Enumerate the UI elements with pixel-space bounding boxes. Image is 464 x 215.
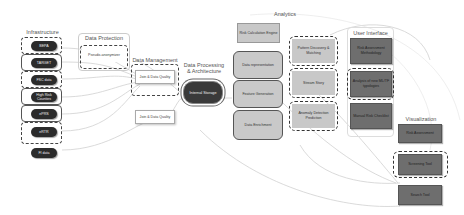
section-data-protection-label: Data Protection: [78, 35, 130, 41]
node-analysis-new-ml-tf-typologies[interactable]: Analysis of new ML/TF typologies: [350, 71, 392, 97]
node-risk-calculation-engine[interactable]: Risk Calculation Engine: [237, 23, 280, 43]
node-feature-generation[interactable]: Feature Generation: [233, 80, 283, 108]
section-data-management-label: Data Management: [130, 57, 180, 63]
node-pseudo-anonymizer[interactable]: Pseudo-anonymizer: [82, 47, 126, 62]
node-high-risk-counties[interactable]: High Risk Counties: [31, 92, 57, 102]
section-visualization-label: Visualization: [398, 116, 444, 122]
connection-lines: [0, 0, 464, 215]
node-risk-assessment-methodology[interactable]: Risk Assessment Methodology: [350, 38, 392, 64]
section-infrastructure-label: Infrastructure: [20, 29, 65, 35]
node-pattern-discovery-matching[interactable]: Pattern Discovery & Matching: [292, 39, 335, 63]
section-data-processing-label: Data Processing & Architecture: [181, 62, 227, 74]
node-screening-tool[interactable]: Screening Tool: [398, 154, 442, 175]
node-search-tool[interactable]: Search Tool: [398, 185, 442, 205]
node-internal-storage[interactable]: Internal Storage: [183, 81, 223, 104]
node-anomaly-detection-prediction[interactable]: Anomaly Detection Prediction: [292, 104, 335, 128]
node-ertr[interactable]: eRTR: [31, 127, 57, 137]
node-stream-story[interactable]: Stream Story: [292, 71, 335, 95]
node-fsc-data[interactable]: FSC data: [31, 75, 57, 85]
node-bepa[interactable]: BEPA: [31, 41, 57, 51]
node-join-data-quality-2[interactable]: Join & Data Quality: [135, 110, 175, 124]
node-join-data-quality-1[interactable]: Join & Data Quality: [135, 70, 175, 84]
node-target[interactable]: TARGET: [31, 58, 57, 68]
section-user-interface-label: User Interface: [347, 30, 394, 36]
node-eprs[interactable]: ePRS: [31, 109, 57, 119]
node-risk-assessment[interactable]: Risk Assessment: [398, 124, 442, 143]
node-data-representation[interactable]: Data representation: [233, 51, 283, 79]
node-data-enrichment[interactable]: Data Enrichment: [233, 110, 283, 140]
node-fi-data[interactable]: FI data: [31, 148, 57, 158]
architecture-diagram: Infrastructure BEPA TARGET FSC data High…: [0, 0, 464, 215]
section-analytics-label: Analytics: [260, 11, 310, 17]
node-manual-risk-checklist[interactable]: Manual Risk Checklist: [350, 103, 392, 129]
